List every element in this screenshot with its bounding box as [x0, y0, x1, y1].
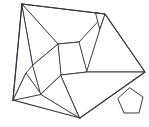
piece-central-quadrilateral[interactable] [58, 42, 87, 75]
figure-canvas [0, 0, 149, 127]
detached-pentagon-piece[interactable] [118, 88, 143, 113]
polygon-dissection-svg [0, 0, 149, 127]
